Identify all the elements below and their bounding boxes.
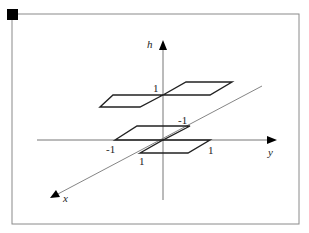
h-axis-label: h [147,38,153,50]
x-axis-label: x [62,192,68,204]
parallelogram-lower-front [140,140,210,153]
parallelogram-lower-back [115,126,190,140]
tick-x-neg-one: -1 [178,114,187,126]
diagram-canvas: h y x 1 -1 1 -1 1 [0,0,309,233]
parallelogram-upper-right [163,82,232,95]
h-axis [159,40,167,200]
corner-marker-icon [7,9,18,20]
tick-y-neg-one: -1 [106,143,115,155]
tick-h-one: 1 [153,82,159,94]
tick-x-one: 1 [139,155,145,167]
x-axis [50,86,262,198]
h-axis-arrow-icon [159,40,167,50]
parallelogram-upper-left [100,95,163,107]
y-axis-arrow-icon [267,136,277,144]
y-axis-label: y [267,146,273,158]
tick-y-one: 1 [208,144,214,156]
